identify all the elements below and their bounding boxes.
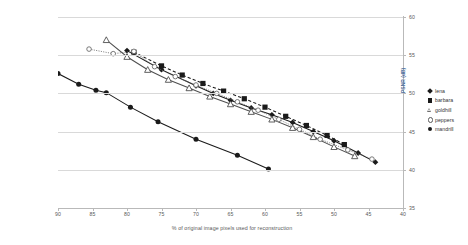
chart-container: 9085807570656055504540 605550454035 % of… xyxy=(0,0,468,245)
data-point xyxy=(194,83,199,88)
y-tick-label: 60 xyxy=(409,14,415,20)
data-point xyxy=(132,49,137,54)
y-tick-label: 35 xyxy=(409,205,415,211)
data-point xyxy=(180,72,185,77)
data-point xyxy=(93,88,98,93)
legend-item-barbara[interactable]: barbara xyxy=(426,96,468,106)
x-tick-label: 90 xyxy=(55,211,61,217)
data-point xyxy=(128,105,133,110)
y-tick-mark xyxy=(403,93,406,94)
data-point xyxy=(186,85,192,91)
x-tick-label: 55 xyxy=(296,211,302,217)
data-point xyxy=(159,63,164,68)
data-point xyxy=(152,64,157,69)
x-axis-line xyxy=(58,208,406,209)
x-tick-label: 70 xyxy=(193,211,199,217)
data-point xyxy=(248,109,254,115)
series-mandrill xyxy=(58,71,271,172)
open-triangle-icon xyxy=(426,106,434,114)
legend-item-label: mandrill xyxy=(435,126,454,132)
y-tick-mark xyxy=(403,132,406,133)
data-point xyxy=(200,81,205,86)
data-point xyxy=(325,133,330,138)
legend-item-goldhill[interactable]: goldhill xyxy=(426,105,468,115)
y-tick-label: 45 xyxy=(409,129,415,135)
data-point xyxy=(256,108,261,113)
x-tick-label: 85 xyxy=(89,211,95,217)
chart-legend: lenabarbaragoldhillpeppersmandrill xyxy=(426,86,468,134)
legend-item-lena[interactable]: lena xyxy=(426,86,468,96)
data-point xyxy=(310,134,316,140)
x-tick-label: 40 xyxy=(400,211,406,217)
data-point xyxy=(87,47,92,52)
open-circle-icon xyxy=(426,116,434,124)
data-point xyxy=(277,117,282,122)
data-point xyxy=(76,82,81,87)
data-point xyxy=(235,153,240,158)
data-point xyxy=(165,77,171,83)
data-point xyxy=(242,96,247,101)
data-point xyxy=(194,137,199,142)
data-point xyxy=(103,37,109,43)
y-tick-mark xyxy=(403,55,406,56)
gridline xyxy=(58,17,406,18)
y-tick-mark xyxy=(403,170,406,171)
y-tick-mark xyxy=(403,208,406,209)
data-point xyxy=(283,114,288,119)
gridline xyxy=(58,55,406,56)
data-point xyxy=(58,71,61,76)
x-tick-label: 50 xyxy=(331,211,337,217)
gridline xyxy=(58,170,406,171)
y-tick-label: 55 xyxy=(409,52,415,58)
data-point xyxy=(156,119,161,124)
y-axis-title: PSNR (dB) xyxy=(400,68,406,93)
data-point xyxy=(342,142,347,147)
legend-item-label: peppers xyxy=(435,117,454,123)
data-point xyxy=(235,100,240,105)
data-point xyxy=(227,101,233,107)
gridline xyxy=(58,132,406,133)
data-point xyxy=(269,116,275,122)
x-tick-label: 45 xyxy=(365,211,371,217)
series-canvas xyxy=(58,17,403,208)
x-tick-label: 65 xyxy=(227,211,233,217)
data-point xyxy=(304,123,309,128)
legend-item-peppers[interactable]: peppers xyxy=(426,115,468,125)
legend-item-label: barbara xyxy=(435,97,453,103)
x-axis-title: % of original image pixels used for reco… xyxy=(58,225,406,231)
data-point xyxy=(173,74,178,79)
data-point xyxy=(145,67,151,73)
legend-item-label: goldhill xyxy=(435,107,452,113)
filled-square-icon xyxy=(426,96,434,104)
filled-diamond-icon xyxy=(426,87,434,95)
y-tick-mark xyxy=(403,17,406,18)
filled-circle-icon xyxy=(426,125,434,133)
data-point xyxy=(346,148,351,153)
plot-area xyxy=(58,17,403,208)
x-tick-label: 75 xyxy=(158,211,164,217)
y-axis-line xyxy=(403,16,404,209)
x-tick-label: 60 xyxy=(262,211,268,217)
data-point xyxy=(262,105,267,110)
gridline xyxy=(58,93,406,94)
x-tick-label: 80 xyxy=(124,211,130,217)
y-tick-label: 40 xyxy=(409,167,415,173)
legend-item-mandrill[interactable]: mandrill xyxy=(426,124,468,134)
y-tick-label: 50 xyxy=(409,90,415,96)
data-point xyxy=(370,157,375,162)
legend-item-label: lena xyxy=(435,88,445,94)
data-point xyxy=(318,137,323,142)
